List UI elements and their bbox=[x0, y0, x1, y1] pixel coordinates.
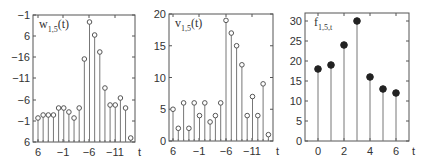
x-tick-label: −11 bbox=[106, 146, 124, 158]
y-tick-label: 6 bbox=[24, 30, 30, 42]
stem-marker-open bbox=[72, 116, 77, 121]
x-tick-label: −1 bbox=[57, 146, 70, 158]
stem-marker-filled bbox=[393, 90, 400, 97]
x-axis-label: t bbox=[412, 145, 415, 157]
stem-marker-open bbox=[103, 86, 108, 91]
plot-title-0: w1,5(t) bbox=[39, 17, 69, 34]
y-tick-label: 5 bbox=[160, 103, 166, 115]
y-tick-label: 25 bbox=[290, 35, 302, 47]
y-tick-label: −1 bbox=[17, 115, 30, 127]
stem-marker-open bbox=[240, 63, 245, 68]
stem-marker-filled bbox=[315, 66, 322, 73]
stem-marker-open bbox=[229, 31, 234, 36]
stem-marker-open bbox=[192, 101, 197, 106]
y-tick-label: −11 bbox=[12, 72, 30, 84]
stem-marker-filled bbox=[341, 42, 348, 49]
stem-marker-open bbox=[87, 20, 92, 25]
y-tick-label: 6 bbox=[24, 136, 30, 148]
stem-marker-filled bbox=[380, 86, 387, 93]
stem-marker-open bbox=[255, 113, 260, 118]
y-tick-label: 15 bbox=[290, 75, 302, 87]
x-axis-label: t bbox=[276, 145, 279, 157]
y-tick-label: 0 bbox=[160, 135, 166, 147]
stem-marker-open bbox=[77, 106, 82, 111]
stem-marker-open bbox=[245, 113, 250, 118]
x-tick-label: −6 bbox=[220, 145, 233, 157]
x-tick-label: 6 bbox=[170, 145, 176, 157]
x-tick-label: 6 bbox=[393, 145, 399, 157]
stem-marker-open bbox=[113, 103, 118, 108]
stem-marker-open bbox=[224, 18, 229, 23]
stem-marker-open bbox=[51, 113, 56, 118]
y-tick-label: 20 bbox=[154, 8, 166, 20]
stem-marker-open bbox=[181, 101, 186, 106]
stem-marker-open bbox=[213, 113, 218, 118]
y-tick-label: 10 bbox=[290, 95, 302, 107]
stem-marker-open bbox=[118, 96, 123, 101]
y-tick-label: −1 bbox=[17, 9, 30, 21]
y-tick-label: 20 bbox=[290, 55, 302, 67]
y-tick-label: −16 bbox=[11, 51, 30, 63]
stem-marker-open bbox=[41, 113, 46, 118]
stem-marker-open bbox=[171, 107, 176, 112]
stem-marker-filled bbox=[328, 62, 335, 69]
stem-marker-open bbox=[108, 103, 113, 108]
x-tick-label: −6 bbox=[83, 146, 96, 158]
y-tick-label: −6 bbox=[17, 94, 30, 106]
x-tick-label: 6 bbox=[35, 146, 41, 158]
y-tick-label: 10 bbox=[154, 72, 166, 84]
plot-title-1: v1,5(t) bbox=[175, 16, 202, 33]
stem-marker-open bbox=[250, 94, 255, 99]
stem-marker-open bbox=[46, 113, 51, 118]
stem-marker-open bbox=[92, 33, 97, 38]
stem-marker-filled bbox=[367, 74, 374, 81]
stem-marker-open bbox=[128, 136, 133, 141]
y-tick-label: 5 bbox=[296, 115, 302, 127]
stem-marker-filled bbox=[354, 18, 361, 25]
stem-marker-open bbox=[261, 82, 266, 87]
x-tick-label: −1 bbox=[193, 145, 206, 157]
stem-marker-open bbox=[176, 126, 181, 131]
stem-marker-open bbox=[61, 106, 66, 111]
stem-marker-open bbox=[203, 101, 208, 106]
x-tick-label: 0 bbox=[315, 145, 321, 157]
stem-plots-figure: −16−16−11−6−166−1−6−11tw1,5(t)051015206−… bbox=[0, 0, 427, 162]
stem-marker-open bbox=[234, 43, 239, 48]
y-tick-label: 30 bbox=[290, 15, 302, 27]
x-tick-label: 4 bbox=[367, 145, 373, 157]
stem-marker-open bbox=[56, 106, 61, 111]
stem-marker-open bbox=[187, 126, 192, 131]
stem-marker-open bbox=[266, 132, 271, 137]
stem-marker-open bbox=[208, 120, 213, 125]
y-tick-label: 0 bbox=[296, 135, 302, 147]
y-tick-label: 15 bbox=[154, 40, 166, 52]
stem-marker-open bbox=[36, 116, 41, 121]
x-tick-label: 2 bbox=[341, 145, 347, 157]
stem-marker-open bbox=[67, 110, 72, 115]
stem-marker-open bbox=[197, 113, 202, 118]
x-tick-label: −11 bbox=[243, 145, 261, 157]
stem-marker-open bbox=[218, 101, 223, 106]
plot-title-2: f1,5,t bbox=[314, 15, 333, 32]
stem-marker-open bbox=[123, 106, 128, 111]
x-axis-label: t bbox=[138, 146, 141, 158]
stem-marker-open bbox=[98, 50, 103, 55]
stem-marker-open bbox=[82, 57, 87, 62]
